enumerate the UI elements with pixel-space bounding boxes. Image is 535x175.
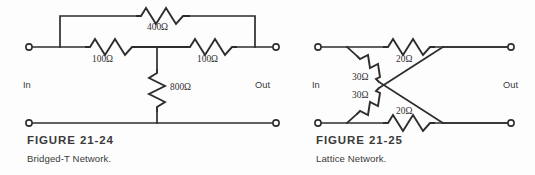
port-out-label: Out xyxy=(503,80,518,90)
bridge-resistor-label: 400Ω xyxy=(147,22,168,32)
figure-sheet: 400Ω 100Ω 100Ω 800Ω In Out FIGURE 21-24 … xyxy=(0,0,535,175)
figure-caption-subtitle: Bridged-T Network. xyxy=(27,153,111,164)
input-terminal-top-icon xyxy=(315,44,321,50)
series-resistor-left-symbol xyxy=(85,39,157,55)
shunt-resistor-symbol xyxy=(149,69,165,112)
output-terminal-bottom-icon xyxy=(273,120,279,126)
input-terminal-bottom-icon xyxy=(26,120,32,126)
bridge-wire-right xyxy=(190,16,255,47)
diagonal-resistor-lower-label: 30Ω xyxy=(352,90,368,100)
bridged-t-schematic xyxy=(0,0,300,140)
diagonal-resistor-upper-label: 30Ω xyxy=(352,72,368,82)
output-terminal-top-icon xyxy=(508,44,514,50)
lattice-schematic xyxy=(300,0,535,140)
figure-21-24: 400Ω 100Ω 100Ω 800Ω In Out FIGURE 21-24 … xyxy=(0,0,300,175)
series-resistor-top-symbol xyxy=(383,39,435,55)
series-resistor-top-label: 20Ω xyxy=(396,54,412,64)
figure-caption-title: FIGURE 21-24 xyxy=(27,134,114,146)
output-terminal-top-icon xyxy=(273,44,279,50)
series-resistor-bottom-label: 20Ω xyxy=(396,106,412,116)
series-resistor-right-symbol xyxy=(157,39,237,55)
figure-21-25: 20Ω 30Ω 30Ω 20Ω In Out FIGURE 21-25 Latt… xyxy=(300,0,535,175)
series-resistor-bottom-symbol xyxy=(383,115,435,131)
diagonal-upper-lead-in xyxy=(347,47,357,56)
port-in-label: In xyxy=(312,80,320,90)
port-out-label: Out xyxy=(255,80,270,90)
series-resistor-left-label: 100Ω xyxy=(92,54,113,64)
input-terminal-top-icon xyxy=(26,44,32,50)
figure-caption-title: FIGURE 21-25 xyxy=(316,134,403,146)
output-terminal-bottom-icon xyxy=(508,120,514,126)
shunt-resistor-label: 800Ω xyxy=(170,82,191,92)
series-resistor-right-label: 100Ω xyxy=(197,54,218,64)
input-terminal-bottom-icon xyxy=(315,120,321,126)
port-in-label: In xyxy=(23,80,31,90)
figure-caption-subtitle: Lattice Network. xyxy=(316,153,386,164)
diagonal-lower-lead-in xyxy=(347,114,357,123)
